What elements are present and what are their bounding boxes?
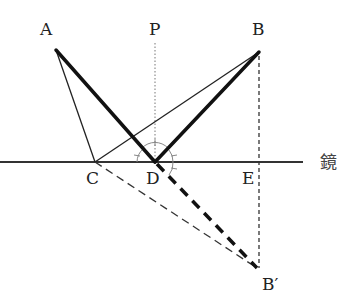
ray-A-C	[56, 50, 95, 162]
label-A: A	[39, 19, 53, 39]
ray-D-B	[155, 52, 259, 162]
label-E: E	[242, 168, 254, 188]
label-P: P	[149, 19, 160, 39]
angle-tick-2	[134, 155, 140, 156]
label-C: C	[86, 168, 99, 188]
extension-C-Bprime	[95, 162, 257, 268]
label-B: B	[252, 19, 265, 39]
label-D: D	[146, 168, 160, 188]
ray-A-D	[56, 50, 155, 162]
reflection-diagram: A P B C D E B′ 鏡	[0, 0, 361, 299]
label-mirror: 鏡	[320, 152, 337, 172]
ray-C-B	[95, 52, 259, 162]
label-B-prime: B′	[262, 274, 278, 294]
